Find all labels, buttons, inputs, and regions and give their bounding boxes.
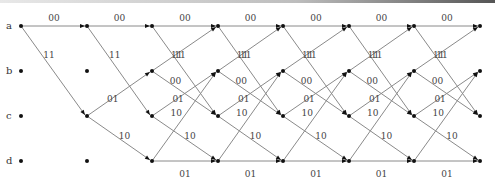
trellis-edge-b-c xyxy=(414,71,478,115)
edge-label: 10 xyxy=(171,108,183,118)
edge-label: 01 xyxy=(310,169,321,179)
trellis-node-c xyxy=(281,114,285,118)
edge-label: 00 xyxy=(179,13,191,23)
trellis-node-d xyxy=(216,159,220,163)
edge-label: 11 xyxy=(368,50,379,60)
trellis-edge-a-c xyxy=(152,26,216,115)
trellis-node-d xyxy=(85,159,89,163)
state-label-b: b xyxy=(6,65,12,76)
trellis-node-b xyxy=(281,69,285,73)
edge-label: 10 xyxy=(250,131,262,141)
trellis-node-b xyxy=(412,69,416,73)
edge-label: 11 xyxy=(43,50,54,60)
edge-label: 10 xyxy=(446,131,458,141)
trellis-edge-b-c xyxy=(152,71,216,115)
trellis-node-b xyxy=(150,69,154,73)
trellis-node-b xyxy=(19,69,23,73)
edge-label: 00 xyxy=(301,76,313,86)
trellis-node-c xyxy=(150,114,154,118)
edge-label: 01 xyxy=(434,94,445,104)
trellis-node-c xyxy=(19,114,23,118)
trellis-node-a xyxy=(85,24,89,28)
trellis-edge-d-b xyxy=(283,72,347,161)
state-label-c: c xyxy=(6,110,12,121)
edge-label: 00 xyxy=(48,13,60,23)
trellis-edge-c-b xyxy=(152,72,216,116)
edge-label: 10 xyxy=(184,131,196,141)
trellis-node-d xyxy=(150,159,154,163)
edge-label: 00 xyxy=(114,13,126,23)
edge-label: 10 xyxy=(236,108,248,118)
trellis-edge-a-c xyxy=(21,26,85,115)
trellis-node-b xyxy=(85,69,89,73)
trellis-edge-d-b xyxy=(152,72,216,161)
edge-label: 01 xyxy=(369,94,380,104)
trellis-node-c xyxy=(347,114,351,118)
edge-label: 01 xyxy=(172,94,183,104)
state-label-d: d xyxy=(6,155,13,166)
edge-label: 10 xyxy=(367,108,379,118)
trellis-edge-d-b xyxy=(218,72,281,161)
edge-label: 00 xyxy=(170,76,182,86)
trellis-node-a xyxy=(216,24,220,28)
trellis-node-b xyxy=(347,69,351,73)
edge-label: 00 xyxy=(432,76,444,86)
trellis-node-a xyxy=(19,24,23,28)
edge-label: 10 xyxy=(302,108,314,118)
edge-label: 10 xyxy=(433,108,445,118)
trellis-diagram: 0011001101100011110001101001001111000110… xyxy=(0,0,495,186)
edge-label: 00 xyxy=(366,76,378,86)
edge-label: 11 xyxy=(109,50,120,60)
trellis-edge-c-b xyxy=(283,72,347,116)
trellis-edge-a-c xyxy=(414,26,478,115)
trellis-node-c xyxy=(412,114,416,118)
trellis-node-a xyxy=(478,24,482,28)
edge-label: 01 xyxy=(245,169,256,179)
edge-label: 11 xyxy=(171,50,182,60)
edge-label: 00 xyxy=(245,13,257,23)
trellis-node-c xyxy=(216,114,220,118)
trellis-node-c xyxy=(85,114,89,118)
trellis-node-d xyxy=(478,159,482,163)
edge-label: 11 xyxy=(237,50,248,60)
edge-label: 01 xyxy=(376,169,387,179)
trellis-node-a xyxy=(347,24,351,28)
edge-label: 11 xyxy=(433,50,444,60)
trellis-node-b xyxy=(216,69,220,73)
edge-label: 11 xyxy=(302,50,313,60)
edge-label: 10 xyxy=(315,131,327,141)
trellis-node-d xyxy=(19,159,23,163)
edge-label: 00 xyxy=(441,13,453,23)
edge-label: 10 xyxy=(381,131,393,141)
trellis-node-a xyxy=(412,24,416,28)
edge-label: 00 xyxy=(310,13,322,23)
trellis-edge-d-b xyxy=(414,72,478,161)
edge-label: 00 xyxy=(376,13,388,23)
trellis-edge-a-c xyxy=(283,26,347,115)
trellis-node-b xyxy=(478,69,482,73)
trellis-node-d xyxy=(281,159,285,163)
edge-label: 01 xyxy=(303,94,314,104)
edge-label: 01 xyxy=(107,94,118,104)
trellis-edge-d-b xyxy=(349,72,412,161)
edge-label: 01 xyxy=(238,94,249,104)
state-label-a: a xyxy=(6,20,12,31)
trellis-node-a xyxy=(281,24,285,28)
trellis-edge-c-b xyxy=(414,72,478,116)
trellis-edge-b-c xyxy=(283,71,347,115)
state-labels: abcd xyxy=(6,20,13,166)
trellis-node-d xyxy=(347,159,351,163)
edge-label: 00 xyxy=(235,76,247,86)
edge-label: 01 xyxy=(179,169,190,179)
trellis-node-c xyxy=(478,114,482,118)
trellis-node-d xyxy=(412,159,416,163)
edge-label: 10 xyxy=(119,131,131,141)
trellis-node-a xyxy=(150,24,154,28)
edge-label: 01 xyxy=(441,169,452,179)
